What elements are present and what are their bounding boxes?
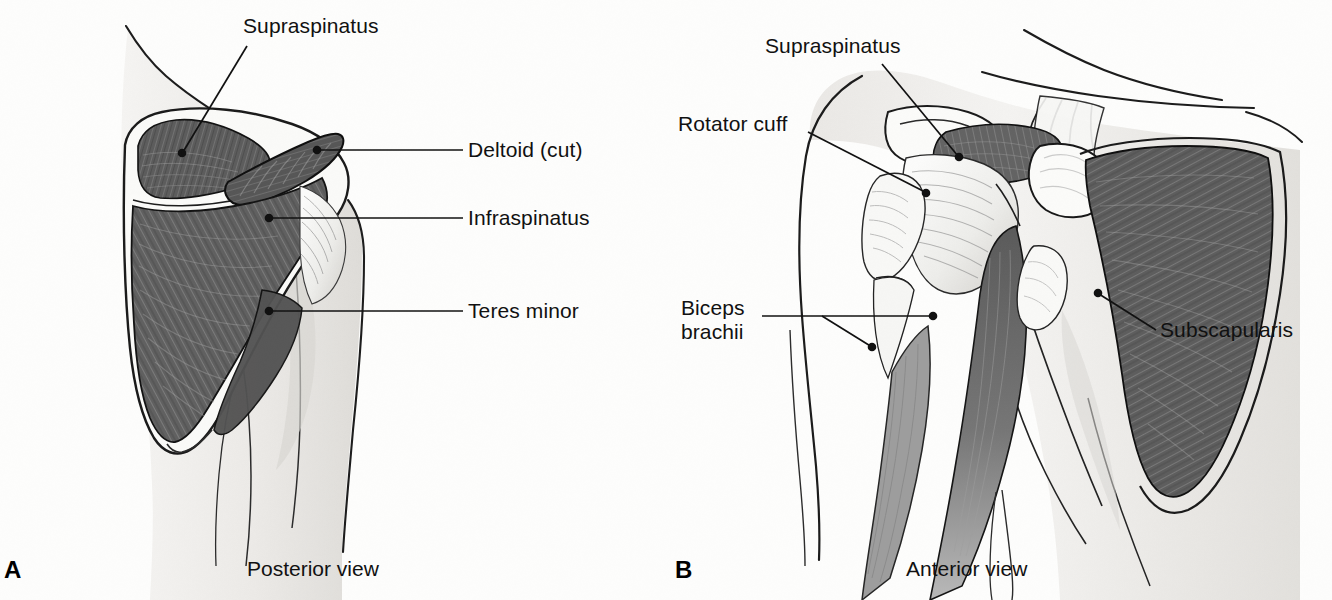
label-biceps-brachii-line1: Biceps (681, 296, 745, 319)
caption-anterior-view: Anterior view (906, 557, 1027, 581)
panel-letter-a: A (4, 556, 21, 584)
panel-letter-b: B (675, 556, 692, 584)
label-supraspinatus-anterior: Supraspinatus (765, 34, 901, 57)
label-subscapularis: Subscapularis (1160, 318, 1293, 341)
label-infraspinatus: Infraspinatus (468, 206, 590, 229)
label-supraspinatus-posterior: Supraspinatus (243, 14, 379, 37)
anatomy-illustration (0, 0, 1332, 600)
label-teres-minor: Teres minor (468, 299, 579, 322)
label-deltoid-cut: Deltoid (cut) (468, 138, 583, 161)
paper-grain-overlay (0, 0, 1332, 600)
label-biceps-brachii-line2: brachii (681, 320, 744, 343)
label-rotator-cuff: Rotator cuff (678, 112, 787, 135)
caption-posterior-view: Posterior view (247, 557, 379, 581)
anatomy-figure: Supraspinatus Deltoid (cut) Infraspinatu… (0, 0, 1332, 600)
